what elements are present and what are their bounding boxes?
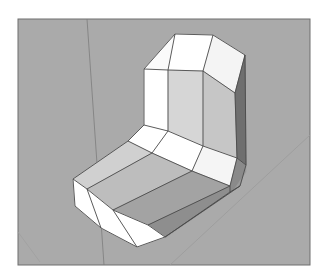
3d-viewport[interactable] xyxy=(0,0,327,280)
scene-canvas[interactable] xyxy=(0,0,327,280)
back-left-face[interactable] xyxy=(144,69,168,131)
